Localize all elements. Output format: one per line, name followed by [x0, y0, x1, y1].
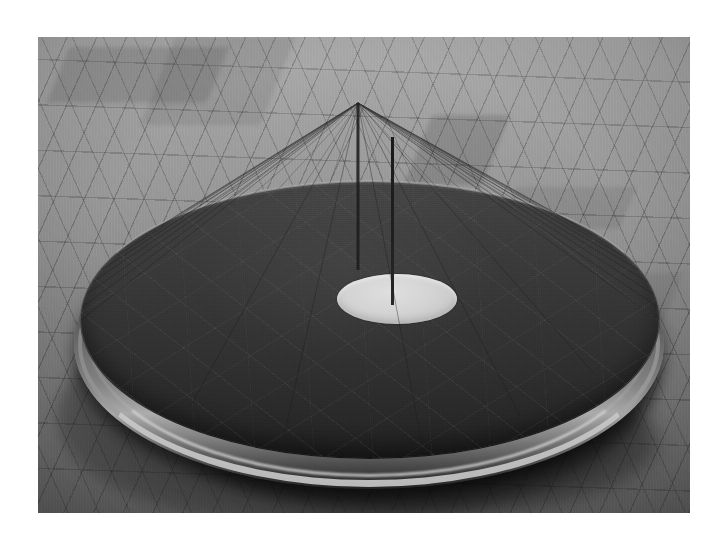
disc-sculpture	[72, 159, 668, 479]
screenshot-canvas	[0, 0, 725, 549]
photograph-plate	[38, 37, 690, 513]
central-mast	[391, 137, 394, 305]
central-aperture	[337, 274, 457, 324]
